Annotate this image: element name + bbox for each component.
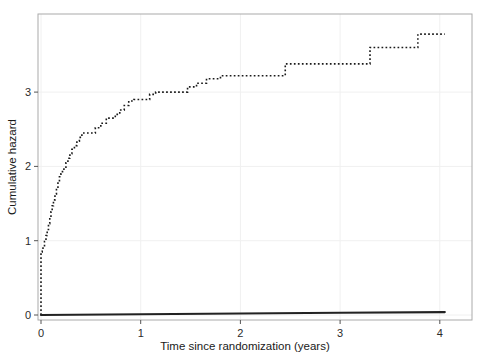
- x-tick-label: 2: [237, 327, 243, 339]
- y-tick-label: 0: [25, 309, 31, 321]
- y-tick-label: 2: [25, 160, 31, 172]
- y-axis-label: Cumulative hazard: [6, 119, 18, 215]
- x-tick-label: 3: [337, 327, 343, 339]
- cumulative-hazard-svg: 01234 0123 Time since randomization (yea…: [0, 0, 490, 360]
- y-tick-label: 1: [25, 235, 31, 247]
- x-tick-label: 1: [138, 327, 144, 339]
- x-axis-label: Time since randomization (years): [160, 340, 330, 352]
- y-tick-label: 3: [25, 86, 31, 98]
- x-tick-label: 0: [38, 327, 44, 339]
- x-tick-label: 4: [437, 327, 443, 339]
- chart-figure: 01234 0123 Time since randomization (yea…: [0, 0, 490, 360]
- figure-background: [0, 0, 490, 360]
